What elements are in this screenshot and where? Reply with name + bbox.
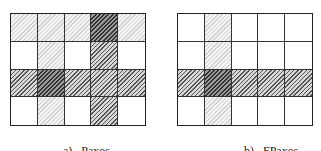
grid-cell-medium	[285, 70, 312, 98]
grid-cell-light	[205, 42, 232, 70]
grid-cell-none	[65, 97, 92, 125]
grid-cell-medium	[118, 70, 145, 98]
paxos-quorum-grid	[10, 13, 146, 126]
grid-cell-light	[205, 14, 232, 42]
grid-cell-light	[38, 42, 65, 70]
caption-paxos: a) Paxos	[51, 129, 110, 151]
grid-cell-medium	[91, 70, 118, 98]
grid-cell-none	[258, 97, 285, 125]
grid-cell-dark	[91, 14, 118, 42]
grid-cell-light	[38, 97, 65, 125]
grid-cell-light	[11, 14, 38, 42]
caption-title: Paxos	[81, 144, 110, 151]
grid-cell-none	[285, 42, 312, 70]
grid-cell-light	[205, 97, 232, 125]
grid-cell-none	[232, 42, 259, 70]
caption-fpaxos: b) FPaxos	[232, 129, 298, 151]
grid-cell-medium	[65, 70, 92, 98]
fpaxos-quorum-grid	[177, 13, 313, 126]
grid-cell-light	[65, 14, 92, 42]
grid-cell-medium	[91, 42, 118, 70]
caption-label: b)	[244, 144, 254, 151]
grid-cell-medium	[11, 70, 38, 98]
grid-cell-none	[178, 14, 205, 42]
grid-cell-light	[118, 14, 145, 42]
grid-cell-none	[118, 97, 145, 125]
grid-cell-none	[65, 42, 92, 70]
grid-cell-none	[178, 42, 205, 70]
grid-cell-medium	[258, 70, 285, 98]
grid-cell-none	[258, 14, 285, 42]
grid-cell-none	[232, 97, 259, 125]
caption-title: FPaxos	[263, 144, 298, 151]
grid-cell-none	[285, 14, 312, 42]
grid-cell-none	[178, 97, 205, 125]
grid-cell-none	[118, 42, 145, 70]
grid-cell-medium	[91, 97, 118, 125]
grid-cell-light	[38, 14, 65, 42]
grid-cell-none	[258, 42, 285, 70]
caption-label: a)	[63, 144, 72, 151]
grid-cell-dark	[38, 70, 65, 98]
grid-cell-none	[11, 42, 38, 70]
grid-cell-medium	[232, 70, 259, 98]
grid-cell-medium	[178, 70, 205, 98]
grid-cell-none	[232, 14, 259, 42]
grid-cell-dark	[205, 70, 232, 98]
grid-cell-none	[285, 97, 312, 125]
grid-cell-none	[11, 97, 38, 125]
